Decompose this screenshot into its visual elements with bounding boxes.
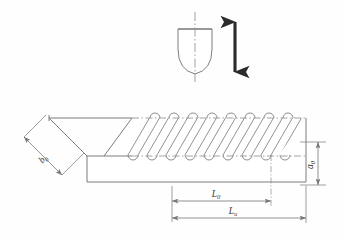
Lu-label: Lu xyxy=(228,206,238,217)
b0-dimension-line xyxy=(24,137,62,175)
groove-top-arcs xyxy=(150,113,293,118)
technical-diagram: b0 a0 L0 Lu xyxy=(0,0,346,239)
dimension-Lu: Lu xyxy=(172,186,306,223)
diagram-canvas: b0 a0 L0 Lu xyxy=(0,0,346,239)
b0-extension-upper xyxy=(24,115,46,137)
bar-left-end-diagonal xyxy=(49,118,87,156)
tool-assembly xyxy=(178,12,212,82)
dimension-b0: b0 xyxy=(24,115,84,175)
b0-label: b0 xyxy=(37,152,51,166)
workpiece-bar xyxy=(49,113,306,182)
bar-front-face-fill xyxy=(87,156,306,182)
a0-label: a0 xyxy=(305,160,316,169)
b0-extension-lower xyxy=(62,153,84,175)
L0-label: L0 xyxy=(211,189,221,200)
